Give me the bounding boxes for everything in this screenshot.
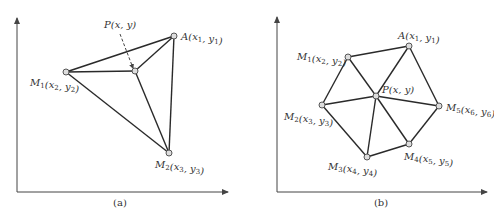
figure-b: A(x1, y1)M1(x2, y2)M2(x3, y3)M3(x4, y4)M…	[277, 17, 494, 208]
edge-m5-a	[409, 46, 439, 106]
edge-p-m1	[66, 71, 135, 72]
label-p: P(x, y)	[381, 84, 414, 95]
node-m1	[63, 69, 69, 75]
caption-a: (a)	[113, 197, 127, 208]
edge-a-m1	[66, 36, 174, 72]
label-a: A(x1, y1)	[180, 31, 223, 46]
node-m4	[406, 141, 412, 147]
label-a: A(x1, y1)	[397, 30, 440, 45]
label-m1: M1(x2, y2)	[29, 77, 79, 94]
node-m3	[364, 154, 370, 160]
edge-p-m4	[376, 96, 409, 144]
node-p	[132, 68, 138, 74]
edge-m2-m3	[322, 105, 367, 157]
label-m3: M3(x4, y4)	[327, 161, 377, 178]
node-p	[373, 93, 379, 99]
node-m2	[319, 102, 325, 108]
figure-a: A(x1, y1)M1(x2, y2)M2(x3, y3)P(x, y)(a)	[17, 18, 228, 208]
node-a	[406, 43, 412, 49]
label-m5: M5(x6, y6)	[445, 102, 494, 119]
edge-p-m5	[376, 96, 439, 106]
label-m2: M2(x3, y3)	[154, 159, 204, 176]
edge-p-m3	[367, 96, 376, 157]
edge-m4-m5	[409, 106, 439, 144]
node-m5	[436, 103, 442, 109]
diagram-canvas: A(x1, y1)M1(x2, y2)M2(x3, y3)P(x, y)(a) …	[0, 0, 494, 219]
node-a	[171, 33, 177, 39]
label-m4: M4(x5, y5)	[403, 151, 453, 168]
label-m2: M2(x3, y3)	[283, 111, 333, 128]
edge-m1-m2	[66, 72, 169, 153]
edge-p-a	[135, 36, 174, 71]
edge-p-m1	[348, 57, 376, 96]
label-m1: M1(x2, y2)	[296, 51, 346, 68]
edge-p-m2	[322, 96, 376, 105]
edge-m3-m4	[367, 144, 409, 157]
label-p: P(x, y)	[103, 19, 136, 30]
edge-p-m2	[135, 71, 169, 153]
caption-b: (b)	[374, 197, 388, 208]
edge-m2-a	[169, 36, 174, 153]
node-m2	[166, 150, 172, 156]
edge-a-m1	[348, 46, 409, 57]
